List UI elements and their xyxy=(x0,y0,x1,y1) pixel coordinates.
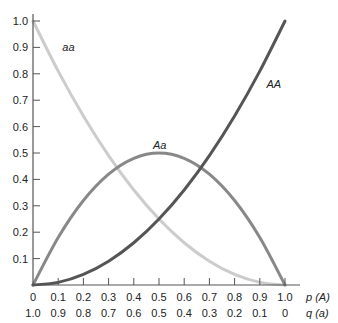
curve-label-aa: AA xyxy=(265,78,281,90)
y-tick-label: 0.9 xyxy=(13,41,28,53)
curve-label-aa: Aa xyxy=(152,139,166,151)
y-tick-label: 0.6 xyxy=(13,121,28,133)
y-tick-label: 0.2 xyxy=(13,226,28,238)
x-tick-label-q: 0 xyxy=(282,307,288,319)
x-tick-label-q: 0.6 xyxy=(126,307,141,319)
x-tick-label-q: 0.3 xyxy=(202,307,217,319)
y-tick-label: 0.7 xyxy=(13,94,28,106)
y-tick-label: 0.5 xyxy=(13,147,28,159)
plot-curves xyxy=(33,21,285,285)
y-tick-label: 0.1 xyxy=(13,253,28,265)
y-tick-label: 0.8 xyxy=(13,68,28,80)
x-tick-label-p: 0.8 xyxy=(227,291,242,303)
curve-label-aa: aa xyxy=(62,41,74,53)
x-tick-label-p: 1.0 xyxy=(277,291,292,303)
x-tick-label-q: 0.9 xyxy=(51,307,66,319)
y-tick-label: 0.4 xyxy=(13,173,28,185)
x-axis-label-p: p (A) xyxy=(305,291,330,303)
x-tick-label-p: 0 xyxy=(30,291,36,303)
x-tick-label-q: 0.1 xyxy=(252,307,267,319)
x-tick-label-q: 0.4 xyxy=(177,307,192,319)
x-tick-label-q: 0.2 xyxy=(227,307,242,319)
x-tick-label-p: 0.7 xyxy=(202,291,217,303)
labels: 0.10.20.30.40.50.60.70.80.91.001.00.10.9… xyxy=(13,15,330,319)
y-tick-label: 0.3 xyxy=(13,200,28,212)
x-tick-label-p: 0.4 xyxy=(126,291,141,303)
x-tick-label-p: 0.6 xyxy=(177,291,192,303)
y-tick-label: 1.0 xyxy=(13,15,28,27)
x-tick-label-p: 0.1 xyxy=(51,291,66,303)
x-tick-label-p: 0.9 xyxy=(252,291,267,303)
x-tick-label-q: 0.5 xyxy=(151,307,166,319)
x-tick-label-p: 0.3 xyxy=(101,291,116,303)
x-tick-label-q: 0.7 xyxy=(101,307,116,319)
x-tick-label-p: 0.2 xyxy=(76,291,91,303)
x-tick-label-q: 1.0 xyxy=(25,307,40,319)
x-tick-label-p: 0.5 xyxy=(151,291,166,303)
axes xyxy=(33,14,300,285)
chart: 0.10.20.30.40.50.60.70.80.91.001.00.10.9… xyxy=(0,0,338,323)
x-tick-label-q: 0.8 xyxy=(76,307,91,319)
x-axis-label-q: q (a) xyxy=(306,307,329,319)
